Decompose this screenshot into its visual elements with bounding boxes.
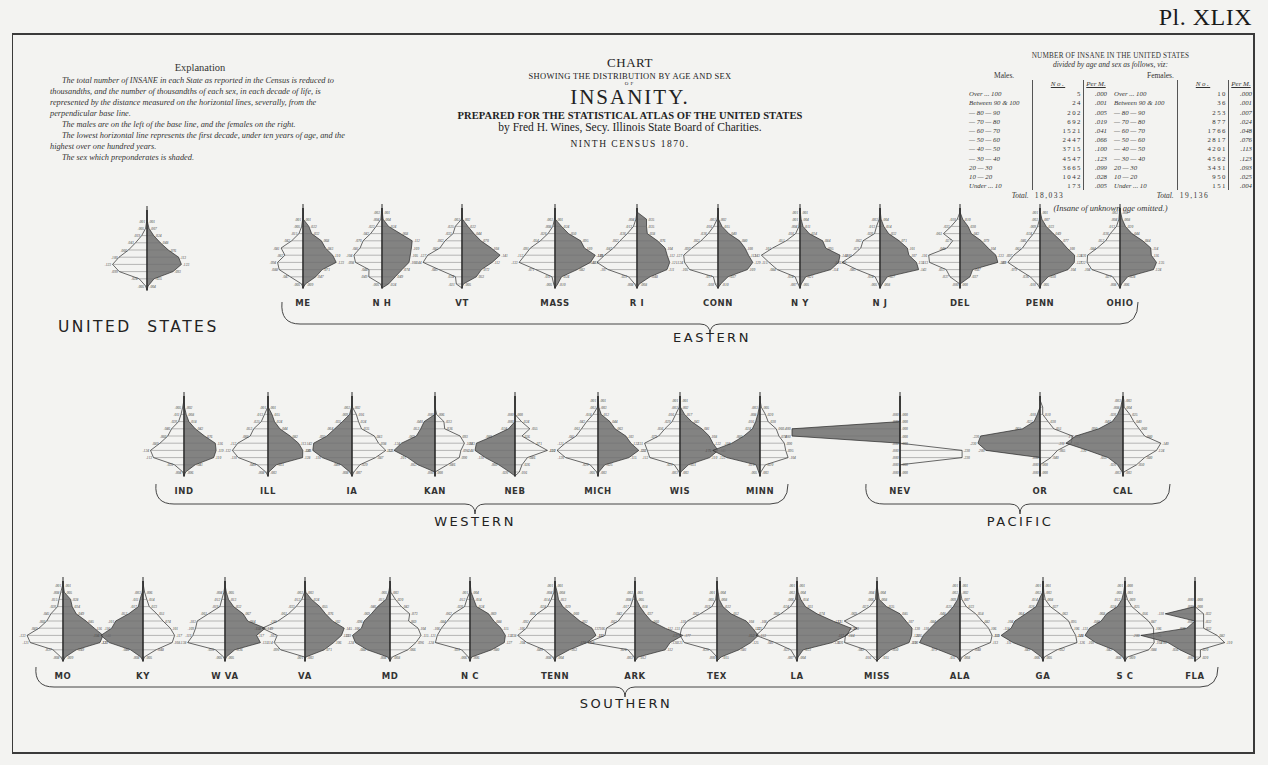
summary-table-subtitle: divided by age and sex as follows, viz: — [968, 60, 1253, 69]
svg-text:.027: .027 — [945, 239, 951, 243]
svg-text:.053: .053 — [478, 275, 484, 279]
svg-text:.030: .030 — [770, 420, 776, 424]
svg-text:.040: .040 — [536, 648, 542, 652]
svg-text:.063: .063 — [693, 239, 699, 243]
svg-text:.006: .006 — [788, 598, 794, 602]
svg-text:.093: .093 — [175, 270, 181, 274]
svg-text:.100: .100 — [845, 254, 851, 258]
svg-text:.175: .175 — [1068, 435, 1074, 439]
svg-text:.175: .175 — [705, 449, 711, 453]
svg-text:.000: .000 — [902, 463, 908, 467]
svg-text:.005: .005 — [751, 471, 757, 475]
svg-text:.001: .001 — [139, 220, 145, 224]
svg-text:.110: .110 — [1158, 612, 1164, 616]
svg-text:.015: .015 — [51, 598, 57, 602]
svg-text:.000: .000 — [892, 456, 898, 460]
svg-text:.003: .003 — [671, 406, 677, 410]
svg-text:.005: .005 — [1046, 656, 1052, 660]
svg-text:.009: .009 — [342, 413, 348, 417]
svg-text:.011: .011 — [173, 413, 179, 417]
svg-text:.000: .000 — [517, 413, 523, 417]
svg-text:.004: .004 — [868, 591, 874, 595]
svg-text:.176: .176 — [580, 641, 586, 645]
svg-text:.024: .024 — [783, 605, 789, 609]
svg-text:.124: .124 — [143, 449, 149, 453]
svg-text:.062: .062 — [445, 612, 451, 616]
svg-text:.001: .001 — [682, 399, 688, 403]
svg-text:.011: .011 — [949, 656, 955, 660]
svg-text:.097: .097 — [1006, 254, 1012, 258]
svg-text:.001: .001 — [297, 656, 303, 660]
svg-text:.071: .071 — [528, 268, 534, 272]
svg-text:.006: .006 — [868, 598, 874, 602]
svg-text:.016: .016 — [865, 656, 871, 660]
svg-text:.140: .140 — [834, 261, 840, 265]
svg-text:.006: .006 — [187, 471, 193, 475]
svg-text:.000: .000 — [902, 427, 908, 431]
svg-text:.011: .011 — [544, 275, 550, 279]
svg-text:.036: .036 — [619, 232, 625, 236]
svg-text:.000: .000 — [902, 413, 908, 417]
table-row: — 50 — 602817.076 — [1113, 135, 1253, 144]
svg-text:.005: .005 — [871, 283, 877, 287]
svg-text:.000: .000 — [1187, 598, 1193, 602]
table-row: — 50 — 602447.066 — [968, 135, 1108, 144]
svg-text:.002: .002 — [1112, 211, 1118, 215]
svg-text:.000: .000 — [902, 420, 908, 424]
svg-text:.104: .104 — [724, 442, 730, 446]
svg-text:.109: .109 — [1088, 641, 1094, 645]
svg-text:.009: .009 — [950, 598, 956, 602]
svg-text:.124: .124 — [677, 261, 683, 265]
svg-text:.211: .211 — [1058, 442, 1064, 446]
svg-text:.032: .032 — [1205, 620, 1211, 624]
svg-text:.014: .014 — [475, 598, 481, 602]
svg-text:.110: .110 — [478, 456, 484, 460]
svg-text:.040: .040 — [249, 463, 255, 467]
svg-text:.024: .024 — [448, 275, 454, 279]
svg-text:.001: .001 — [557, 218, 563, 222]
svg-text:.002: .002 — [344, 406, 350, 410]
svg-text:.055: .055 — [1100, 456, 1106, 460]
svg-text:.121: .121 — [558, 442, 564, 446]
svg-text:.065: .065 — [1015, 247, 1021, 251]
svg-text:.023: .023 — [783, 648, 789, 652]
svg-text:.026: .026 — [1028, 605, 1034, 609]
svg-text:.008: .008 — [625, 598, 631, 602]
svg-text:.000: .000 — [437, 471, 443, 475]
svg-text:.148: .148 — [589, 261, 595, 265]
table-row: — 60 — 701521.041 — [968, 126, 1108, 135]
svg-text:.121: .121 — [23, 641, 29, 645]
svg-text:.005: .005 — [1043, 283, 1049, 287]
svg-text:.000: .000 — [892, 442, 898, 446]
svg-text:.008: .008 — [188, 413, 194, 417]
svg-text:.045: .045 — [43, 612, 49, 616]
svg-text:.092: .092 — [522, 620, 528, 624]
svg-text:.007: .007 — [963, 598, 969, 602]
svg-text:.010: .010 — [1044, 413, 1050, 417]
svg-text:.080: .080 — [1146, 435, 1152, 439]
svg-text:.066: .066 — [242, 435, 248, 439]
svg-text:.002: .002 — [1032, 218, 1038, 222]
svg-text:.117: .117 — [838, 634, 844, 638]
svg-text:.042: .042 — [284, 239, 290, 243]
svg-text:.070: .070 — [355, 239, 361, 243]
svg-text:.001: .001 — [557, 584, 563, 588]
svg-text:.000: .000 — [892, 413, 898, 417]
svg-text:.125: .125 — [101, 641, 107, 645]
svg-text:.065: .065 — [1015, 427, 1021, 431]
svg-text:.006: .006 — [473, 656, 479, 660]
svg-text:.008: .008 — [1047, 598, 1053, 602]
svg-text:.005: .005 — [138, 285, 144, 289]
males-heading: Males. — [968, 71, 1108, 80]
table-row: — 60 — 701766.048 — [1113, 126, 1253, 135]
svg-text:.005: .005 — [66, 591, 72, 595]
svg-text:.143: .143 — [469, 442, 475, 446]
svg-text:.089: .089 — [31, 627, 37, 631]
svg-text:.067: .067 — [277, 254, 283, 258]
svg-text:.046: .046 — [370, 605, 376, 609]
state-chart-ohio: .008.006.027.028.104.124.122.135.120.116… — [1050, 204, 1190, 294]
svg-text:.026: .026 — [620, 648, 626, 652]
svg-text:.001: .001 — [952, 584, 958, 588]
svg-text:.200: .200 — [978, 449, 984, 453]
svg-text:.040: .040 — [416, 420, 422, 424]
